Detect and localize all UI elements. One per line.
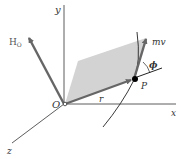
phi-label: ϕ: [149, 60, 158, 70]
diagram-canvas: y x z O HO r mv P ϕ: [0, 0, 181, 159]
angular-momentum-diagram: y x z O HO r mv P ϕ: [0, 0, 181, 159]
x-axis-label: x: [171, 108, 176, 118]
angular-momentum-label: HO: [9, 37, 22, 48]
p-label: P: [140, 81, 148, 91]
origin-point: [63, 102, 67, 106]
origin-label: O: [52, 99, 60, 110]
mv-label: mv: [152, 37, 166, 47]
r-label: r: [99, 94, 104, 104]
angular-momentum-vector: [29, 38, 64, 104]
particle-p: [132, 76, 138, 82]
z-axis-label: z: [6, 146, 12, 156]
y-axis-label: y: [54, 4, 61, 15]
plane-of-r-and-mv: [65, 38, 146, 104]
